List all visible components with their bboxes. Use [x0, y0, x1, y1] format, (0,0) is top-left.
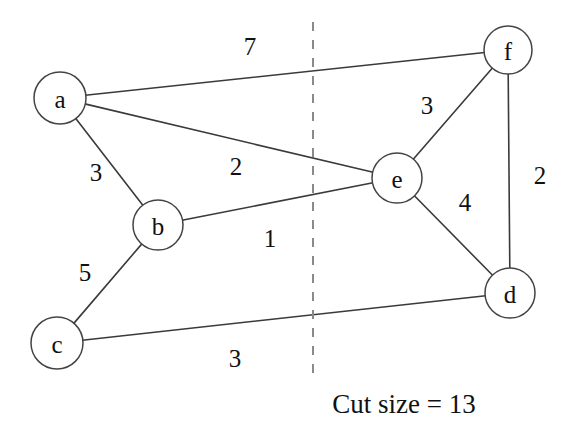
graph-cut-figure: 732153342 abcdef Cut size = 13	[0, 0, 569, 445]
edge-weight-c-d: 3	[229, 346, 242, 371]
graph-edge-a-f	[85, 53, 484, 96]
edge-weight-b-c: 5	[79, 260, 92, 285]
graph-edge-b-e	[182, 183, 373, 221]
node-label-d: d	[504, 282, 517, 307]
edge-weight-f-d: 2	[534, 163, 547, 188]
node-label-f: f	[504, 39, 512, 64]
edge-weight-e-d: 4	[459, 190, 472, 215]
edge-weight-a-e: 2	[230, 154, 243, 179]
edge-weight-a-b: 3	[90, 160, 103, 185]
edge-weight-e-f: 3	[421, 93, 434, 118]
graph-edge-a-b	[76, 118, 143, 205]
graph-edge-f-d	[508, 73, 510, 268]
graph-edge-c-d	[82, 296, 485, 341]
node-label-e: e	[391, 167, 402, 192]
edges-group	[74, 53, 510, 341]
node-label-a: a	[54, 87, 65, 112]
node-label-b: b	[152, 214, 165, 239]
node-label-c: c	[51, 332, 62, 357]
cut-size-caption: Cut size = 13	[332, 391, 475, 418]
graph-canvas	[0, 0, 569, 445]
edge-weight-b-e: 1	[264, 226, 277, 251]
graph-edge-e-d	[414, 195, 493, 275]
edge-weight-a-f: 7	[244, 34, 257, 59]
